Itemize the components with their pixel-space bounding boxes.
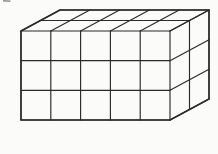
figure-canvas	[0, 0, 218, 154]
caption-shi-character	[4, 132, 18, 145]
cuboid-grid-figure	[21, 10, 209, 120]
worksheet-page	[0, 0, 218, 154]
shi-stroke-top-horizontal	[4, 135, 18, 136]
shi-stroke-hook	[12, 135, 17, 144]
shi-stroke-dot	[14, 132, 16, 134]
